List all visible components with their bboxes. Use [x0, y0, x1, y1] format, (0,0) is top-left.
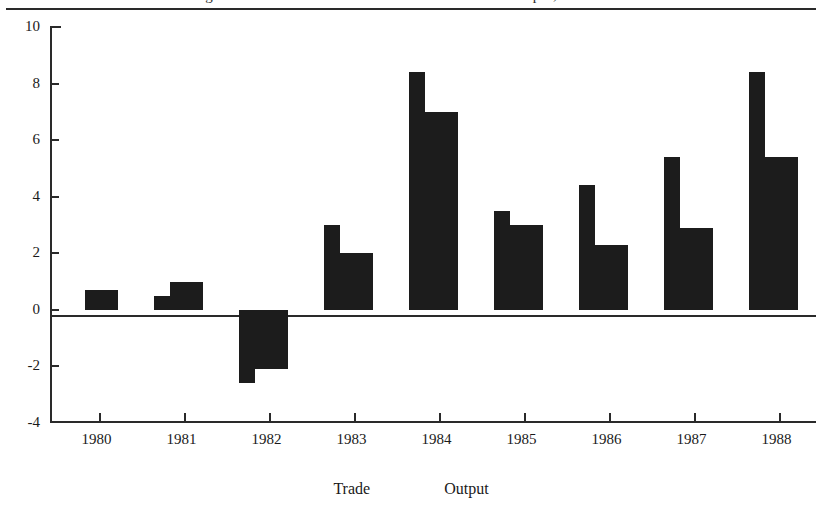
bar-trade-1984	[409, 72, 425, 310]
y-axis-label: 4	[0, 189, 40, 204]
plot-area: 1086420-2-419801981198219831984198519861…	[50, 27, 816, 423]
bar-output-1985	[510, 225, 543, 310]
x-axis-label: 1984	[392, 431, 482, 447]
x-axis-tick	[609, 413, 611, 422]
bar-trade-1983	[324, 225, 340, 310]
legend-item-output: Output	[444, 479, 488, 499]
x-axis-label: 1987	[647, 431, 737, 447]
bar-output-1982	[255, 310, 288, 369]
x-axis-label: 1986	[562, 431, 652, 447]
figure-caption-clipped: Figure 1. Growth of world merchandise tr…	[0, 0, 822, 5]
bar-output-1980	[85, 290, 118, 310]
top-horizontal-rule	[6, 8, 816, 10]
x-axis-tick	[269, 413, 271, 422]
x-axis-label: 1981	[137, 431, 227, 447]
bar-output-1983	[340, 253, 373, 310]
bar-trade-1985	[494, 211, 510, 310]
figure-caption-text: Figure 1. Growth of world merchandise tr…	[0, 0, 822, 4]
x-axis-line	[50, 421, 816, 423]
y-axis-tick	[50, 83, 59, 85]
zero-baseline	[50, 315, 816, 317]
bar-output-1984	[425, 112, 458, 310]
y-axis-label: 6	[0, 132, 40, 147]
x-axis-label: 1980	[52, 431, 142, 447]
y-axis-label: 8	[0, 76, 40, 91]
y-axis-label: -2	[0, 358, 40, 373]
y-axis-tick	[50, 365, 59, 367]
bar-output-1988	[765, 157, 798, 310]
bar-trade-1987	[664, 157, 680, 310]
x-axis-tick	[354, 413, 356, 422]
y-axis-tick	[50, 252, 59, 254]
x-axis-tick	[694, 413, 696, 422]
bar-output-1987	[680, 228, 713, 310]
y-axis-line	[50, 27, 52, 423]
x-axis-label: 1988	[732, 431, 822, 447]
y-axis-label: 0	[0, 302, 40, 317]
chart-legend: Trade Output	[0, 479, 822, 499]
y-axis-tick	[50, 196, 59, 198]
y-axis-label: 2	[0, 245, 40, 260]
bar-trade-1982	[239, 310, 255, 384]
bar-trade-1981	[154, 296, 170, 310]
bar-trade-1986	[579, 185, 595, 309]
bar-output-1981	[170, 282, 203, 310]
legend-item-trade: Trade	[333, 479, 370, 499]
bar-output-1986	[595, 245, 628, 310]
x-axis-tick	[524, 413, 526, 422]
x-axis-label: 1983	[307, 431, 397, 447]
y-axis-tick	[50, 26, 61, 28]
x-axis-tick	[184, 413, 186, 422]
x-axis-tick	[779, 413, 781, 422]
y-axis-label: 10	[0, 19, 40, 34]
x-axis-label: 1985	[477, 431, 567, 447]
y-axis-tick	[50, 139, 59, 141]
bar-trade-1988	[749, 72, 765, 310]
x-axis-tick	[99, 413, 101, 422]
figure-container: Figure 1. Growth of world merchandise tr…	[0, 0, 822, 526]
y-axis-label: -4	[0, 415, 40, 430]
x-axis-label: 1982	[222, 431, 312, 447]
y-axis-tick	[50, 309, 59, 311]
x-axis-tick	[439, 413, 441, 422]
